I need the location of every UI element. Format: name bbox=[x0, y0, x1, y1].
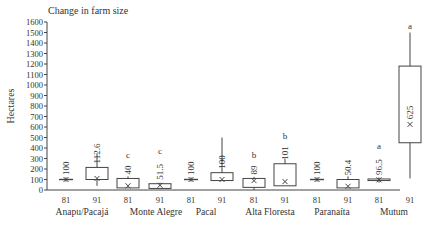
mean-value-label: 625 bbox=[405, 105, 415, 119]
year-label: 91 bbox=[93, 195, 102, 205]
year-label: 91 bbox=[156, 195, 165, 205]
year-label: 81 bbox=[187, 195, 196, 205]
significance-letter: b bbox=[252, 150, 257, 160]
y-tick-label: 1200 bbox=[26, 59, 43, 69]
y-tick-label: 1300 bbox=[26, 49, 43, 59]
mean-value-label: 50.4 bbox=[343, 159, 353, 175]
y-tick-label: 0 bbox=[39, 185, 43, 195]
group-label: Mutum bbox=[380, 207, 409, 217]
y-tick-label: 500 bbox=[30, 133, 43, 143]
box-rect bbox=[399, 66, 421, 143]
year-label: 81 bbox=[313, 195, 322, 205]
mean-value-label: 100 bbox=[186, 161, 196, 175]
mean-value-label: 100 bbox=[61, 161, 71, 175]
significance-letter: c bbox=[126, 150, 130, 160]
mean-marker-icon bbox=[220, 177, 225, 182]
box-rect bbox=[86, 167, 108, 179]
y-tick-label: 300 bbox=[30, 154, 43, 164]
y-axis-label: Hectares bbox=[5, 88, 16, 123]
significance-letter: a bbox=[377, 141, 381, 151]
y-tick-label: 600 bbox=[30, 122, 43, 132]
group-label: Monte Alegre bbox=[130, 207, 183, 217]
significance-letter: c bbox=[158, 146, 162, 156]
box-rect bbox=[274, 164, 296, 186]
group-label: Pacal bbox=[196, 207, 217, 217]
y-tick-label: 1400 bbox=[26, 38, 43, 48]
y-tick-label: 900 bbox=[30, 91, 43, 101]
y-tick-label: 200 bbox=[30, 164, 43, 174]
group-label: Paranaíta bbox=[314, 207, 350, 217]
mean-value-label: 100 bbox=[312, 161, 322, 175]
mean-value-label: 51.5 bbox=[155, 163, 165, 179]
year-label: 81 bbox=[124, 195, 133, 205]
year-label: 91 bbox=[218, 195, 227, 205]
year-label: 91 bbox=[344, 195, 353, 205]
mean-value-label: 112.6 bbox=[92, 143, 102, 163]
box-rect bbox=[243, 178, 265, 187]
year-label: 81 bbox=[250, 195, 259, 205]
y-tick-label: 800 bbox=[30, 101, 43, 111]
year-label: 81 bbox=[62, 195, 71, 205]
mean-value-label: 96.5 bbox=[374, 159, 384, 175]
y-tick-label: 1000 bbox=[26, 80, 43, 90]
significance-letter: a bbox=[408, 21, 412, 31]
mean-value-label: 101 bbox=[280, 146, 290, 160]
mean-value-label: 89 bbox=[249, 165, 259, 175]
boxes-layer: 100112.640c51.5c10010089b101b10050.496.5… bbox=[59, 21, 421, 191]
y-tick-label: 100 bbox=[30, 175, 43, 185]
group-label: Anapu/Pacajá bbox=[56, 207, 110, 217]
box-rect bbox=[149, 184, 171, 189]
significance-letter: b bbox=[283, 131, 288, 141]
mean-marker-icon bbox=[408, 122, 413, 127]
year-label: 81 bbox=[375, 195, 384, 205]
y-tick-label: 1500 bbox=[26, 28, 43, 38]
y-axis: 0100200300400500600700800900100011001200… bbox=[26, 17, 47, 195]
box-plot-chart: Change in farm size Hectares 01002003004… bbox=[0, 0, 436, 232]
y-tick-label: 700 bbox=[30, 112, 43, 122]
group-label: Alta Floresta bbox=[245, 207, 295, 217]
mean-value-label: 100 bbox=[217, 155, 227, 169]
year-label: 91 bbox=[406, 195, 415, 205]
y-tick-label: 1600 bbox=[26, 17, 43, 27]
x-axis: Anapu/Pacajá8191Monte Alegre8191Pacal819… bbox=[47, 190, 414, 217]
mean-marker-icon bbox=[283, 179, 288, 184]
chart-title: Change in farm size bbox=[48, 5, 129, 16]
year-label: 91 bbox=[281, 195, 290, 205]
mean-value-label: 40 bbox=[123, 165, 133, 175]
y-tick-label: 1100 bbox=[26, 70, 43, 80]
y-tick-label: 400 bbox=[30, 143, 43, 153]
